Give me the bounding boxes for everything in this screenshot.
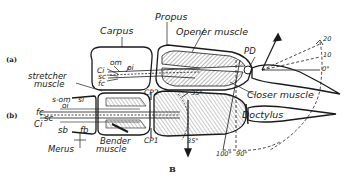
fc-a-label: fc [98, 80, 105, 88]
om-label: om [110, 59, 122, 67]
si-label: si [78, 96, 84, 104]
bender-muscle-label-2: muscle [96, 145, 126, 154]
angle-35-bottom-label: 35° [187, 138, 199, 145]
carpus-label: Carpus [100, 26, 133, 36]
angle-90-label: 90° [236, 151, 248, 158]
opener-muscle-shape [162, 51, 245, 68]
panel-a-label: (a) [6, 56, 17, 63]
pd-label: PD [244, 47, 256, 56]
stretcher-muscle-label-2: muscle [34, 80, 64, 89]
angle-35-top-label: 35° [191, 90, 203, 97]
merus-label: Merus [48, 145, 74, 154]
closer-muscle-label: Closer muscle [247, 90, 314, 100]
angle-100-label: 100° [216, 151, 232, 158]
cp2-label: CP2 [144, 89, 159, 97]
dactylus-label: Doctylus [242, 110, 283, 120]
oi-label: oi [127, 64, 134, 72]
propus-label: Propus [155, 12, 187, 22]
opener-muscle-label: Opener muscle [176, 27, 248, 37]
fc-b-label: fc [36, 108, 44, 117]
ci-b-label: Ci [34, 120, 42, 129]
angle-10-label: 10 [323, 52, 331, 59]
sc-b-label: sc [44, 114, 53, 123]
angle-20-label: 20 [323, 36, 331, 43]
figure-letter: B [169, 165, 176, 173]
oi-b-label: oi [62, 102, 69, 110]
fb-label: fb [80, 126, 88, 135]
cp1-label: CP1 [144, 137, 159, 145]
panel-b-label: (b) [6, 112, 18, 119]
angle-0-label: 0° [322, 66, 329, 73]
sb-label: sb [58, 126, 68, 135]
propus-b-outline [154, 91, 246, 136]
